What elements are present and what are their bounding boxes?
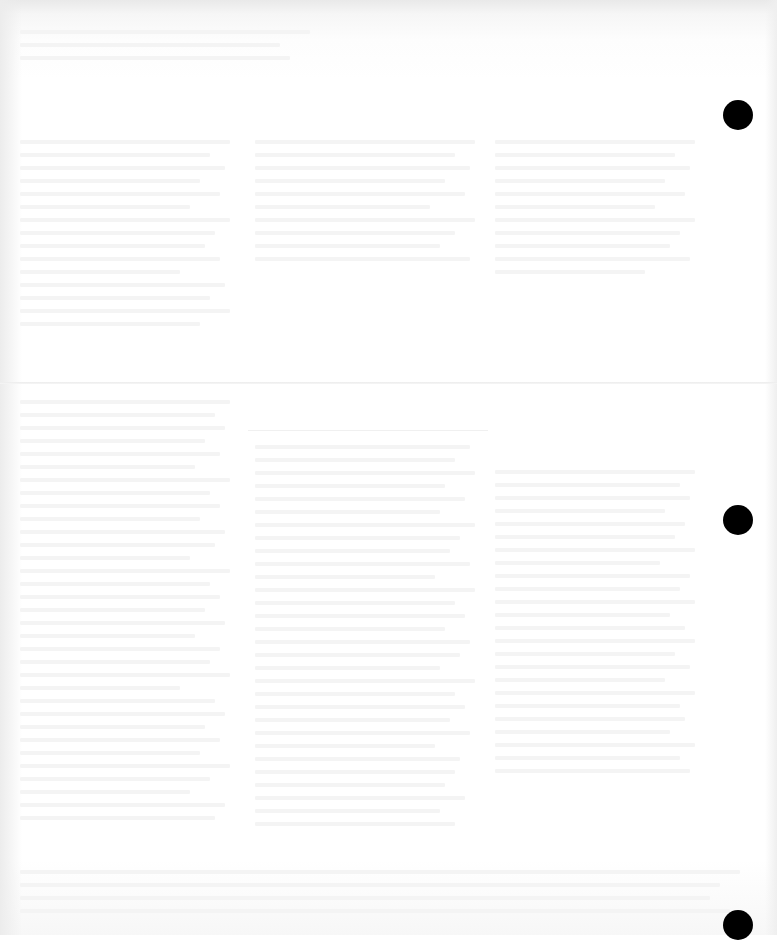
page-shadow-right: [765, 0, 777, 935]
ghost-text-column-right: [495, 140, 715, 283]
ghost-text-column-middle: [255, 140, 485, 270]
ghost-text-footer: [20, 870, 760, 922]
ghost-text-column-left-lower: [20, 400, 240, 829]
punch-hole-top: [723, 100, 753, 130]
page-shadow-left: [0, 0, 22, 935]
page-fold-line: [0, 382, 777, 384]
punch-hole-bottom: [723, 910, 753, 940]
horizontal-rule: [248, 430, 488, 431]
ghost-text-column-right-lower: [495, 470, 715, 782]
ghost-text-column-middle-lower: [255, 445, 485, 835]
ghost-text-column-left: [20, 140, 240, 335]
ghost-text-header: [20, 30, 320, 69]
punch-hole-middle: [723, 505, 753, 535]
